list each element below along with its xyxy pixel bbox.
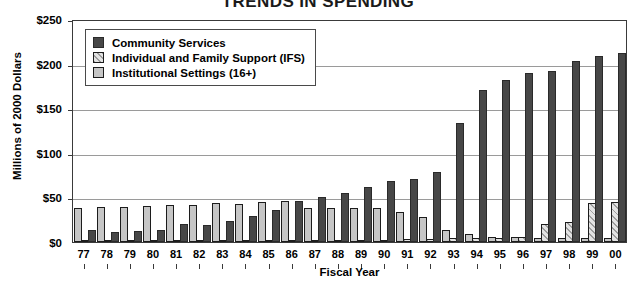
bar-inst: [281, 201, 289, 242]
bar-inst: [511, 237, 519, 242]
legend-swatch-icon: [93, 67, 104, 78]
x-tick-label: 97: [535, 248, 558, 264]
chart-title: TRENDS IN SPENDING: [0, 0, 636, 12]
legend-item: Individual and Family Support (IFS): [93, 50, 305, 65]
x-tick-label: 87: [303, 248, 326, 264]
x-tick-label: 99: [581, 248, 604, 264]
bar-inst: [442, 230, 450, 242]
x-tick-label: 78: [95, 248, 118, 264]
x-tick-label: 82: [188, 248, 211, 264]
legend-item: Community Services: [93, 35, 305, 50]
bar-comm: [572, 61, 580, 242]
bar-comm: [502, 80, 510, 242]
x-tick-label: 98: [558, 248, 581, 264]
bar-group: [580, 21, 603, 242]
bar-inst: [558, 238, 566, 242]
bar-comm: [134, 231, 142, 242]
bar-comm: [387, 181, 395, 242]
bar-comm: [180, 224, 188, 242]
bar-inst: [350, 208, 358, 242]
bar-comm: [410, 179, 418, 242]
bar-comm: [456, 123, 464, 242]
bar-inst: [581, 238, 589, 242]
x-tick-label: 83: [211, 248, 234, 264]
bar-inst: [189, 205, 197, 242]
bar-inst: [143, 206, 151, 242]
y-tick-label: $0: [16, 238, 62, 248]
chart-legend: Community ServicesIndividual and Family …: [85, 29, 316, 86]
legend-swatch-icon: [93, 52, 104, 63]
bar-comm: [479, 90, 487, 242]
bar-inst: [212, 203, 220, 242]
legend-swatch-icon: [93, 37, 104, 48]
bar-group: [350, 21, 373, 242]
bar-comm: [341, 193, 349, 242]
legend-item: Institutional Settings (16+): [93, 65, 305, 80]
bar-inst: [465, 234, 473, 242]
bar-group: [396, 21, 419, 242]
legend-item-label: Individual and Family Support (IFS): [112, 52, 305, 64]
bar-inst: [373, 208, 381, 242]
bar-inst: [166, 205, 174, 242]
y-tick-label: $200: [16, 60, 62, 70]
bar-group: [603, 21, 626, 242]
x-tick-label: 93: [442, 248, 465, 264]
bar-group: [419, 21, 442, 242]
bar-inst: [488, 237, 496, 242]
bar-comm: [318, 197, 326, 242]
bar-inst: [327, 208, 335, 242]
x-tick-label: 80: [141, 248, 164, 264]
bar-inst: [534, 238, 542, 242]
x-tick-label: 94: [465, 248, 488, 264]
bar-comm: [525, 73, 533, 242]
bar-comm: [364, 187, 372, 242]
bar-group: [327, 21, 350, 242]
bar-comm: [249, 216, 257, 242]
x-tick-label: 86: [280, 248, 303, 264]
y-tick-label: $250: [16, 15, 62, 25]
bar-group: [511, 21, 534, 242]
x-tick-label: 90: [373, 248, 396, 264]
bar-comm: [203, 225, 211, 242]
x-tick-label: 89: [350, 248, 373, 264]
bar-inst: [74, 208, 82, 242]
x-tick-label: 88: [326, 248, 349, 264]
bar-inst: [258, 202, 266, 242]
bar-inst: [97, 207, 105, 242]
bar-inst: [604, 238, 612, 242]
x-tick-label: 92: [419, 248, 442, 264]
x-tick-label: 96: [511, 248, 534, 264]
y-axis-tick-labels: $0$50$100$150$200$250: [14, 0, 62, 291]
bar-group: [534, 21, 557, 242]
bar-comm: [433, 172, 441, 242]
x-tick-label: 81: [165, 248, 188, 264]
x-tick-label: 00: [604, 248, 627, 264]
y-tick-label: $50: [16, 193, 62, 203]
bar-comm: [295, 201, 303, 242]
bar-comm: [618, 53, 626, 242]
y-tick-label: $150: [16, 104, 62, 114]
x-tick-label: 91: [396, 248, 419, 264]
bar-group: [465, 21, 488, 242]
bar-inst: [235, 204, 243, 242]
x-axis-tick-labels: 7778798081828384858687888990919293949596…: [72, 248, 627, 264]
bar-comm: [548, 71, 556, 242]
bar-group: [488, 21, 511, 242]
x-tick-label: 85: [257, 248, 280, 264]
bar-group: [442, 21, 465, 242]
bar-comm: [111, 232, 119, 242]
bar-comm: [595, 56, 603, 242]
bar-inst: [304, 208, 312, 242]
spending-trends-chart: TRENDS IN SPENDING Millions of 2000 Doll…: [0, 0, 636, 291]
x-tick-label: 77: [72, 248, 95, 264]
bar-comm: [272, 210, 280, 242]
bar-inst: [120, 207, 128, 242]
legend-item-label: Institutional Settings (16+): [112, 67, 256, 79]
x-tick-label: 95: [488, 248, 511, 264]
x-tick-label: 84: [234, 248, 257, 264]
bar-comm: [226, 221, 234, 242]
bar-comm: [157, 230, 165, 242]
bar-inst: [419, 217, 427, 242]
bar-group: [557, 21, 580, 242]
bar-comm: [88, 230, 96, 242]
